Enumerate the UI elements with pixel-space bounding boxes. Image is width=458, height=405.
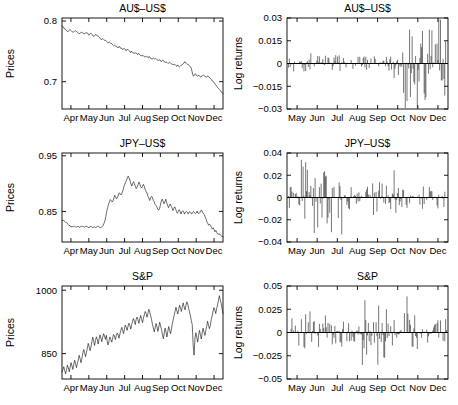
x-tick-label: Jun [310, 245, 325, 256]
x-tick-label: Sep [369, 382, 386, 393]
x-tick-label: Jul [331, 245, 343, 256]
chart-panel-jpy-prices: JPY–US$Prices0.850.95AprMayJunJulAugSepO… [0, 135, 229, 268]
x-tick-label: Dec [206, 245, 223, 256]
y-tick-label: −0.03 [258, 103, 282, 114]
x-tick-label: Nov [188, 112, 205, 123]
x-tick-label: Jun [99, 112, 114, 123]
chart-panel-jpy-returns: JPY–US$Log returns−0.04−0.0200.020.04May… [229, 135, 458, 268]
price-series-line [62, 296, 223, 374]
y-axis-label: Log returns [232, 306, 244, 359]
x-tick-label: Apr [64, 112, 79, 123]
x-tick-label: May [80, 382, 98, 393]
y-tick-label: 0.04 [264, 147, 283, 158]
y-tick-label: 0.85 [39, 206, 58, 217]
x-tick-label: May [80, 245, 98, 256]
y-tick-label: 0.02 [264, 170, 283, 181]
x-tick-label: Sep [152, 245, 169, 256]
y-axis-label: Prices [4, 318, 16, 347]
x-tick-label: Nov [409, 382, 426, 393]
figure-panel-grid: AU$–US$Prices0.70.8AprMayJunJulAugSepOct… [0, 0, 458, 405]
y-tick-label: −0.02 [258, 214, 282, 225]
panel-title: JPY–US$ [120, 137, 166, 149]
x-tick-label: Oct [171, 112, 186, 123]
panel-title: S&P [132, 270, 153, 282]
x-tick-label: Nov [409, 112, 426, 123]
chart-panel-sp-returns: S&PLog returns−0.05−0.02500.0250.05MayJu… [229, 268, 458, 405]
y-axis-label: Prices [4, 49, 16, 78]
x-tick-label: May [80, 112, 98, 123]
chart-panel-au-returns: AU$–US$Log returns−0.03−0.01500.0150.03M… [229, 0, 458, 135]
y-tick-label: 0.7 [44, 76, 57, 87]
y-tick-label: 1000 [36, 285, 57, 296]
chart-panel-au-prices: AU$–US$Prices0.70.8AprMayJunJulAugSepOct… [0, 0, 229, 135]
x-tick-label: Apr [64, 245, 79, 256]
x-tick-label: Aug [349, 112, 366, 123]
log-returns-spikes [289, 296, 447, 365]
y-axis-label: Prices [4, 183, 16, 212]
x-tick-label: May [288, 245, 306, 256]
y-tick-label: 0 [277, 327, 282, 338]
x-tick-label: Jul [119, 382, 131, 393]
x-tick-label: Aug [349, 382, 366, 393]
x-tick-label: Oct [171, 245, 186, 256]
y-tick-label: −0.04 [258, 236, 282, 247]
chart-panel-sp-prices: S&PPrices8501000AprMayJunJulAugSepOctNov… [0, 268, 229, 405]
x-tick-label: Oct [390, 112, 405, 123]
x-tick-label: Aug [134, 112, 151, 123]
price-series-line [62, 176, 223, 237]
x-tick-label: Oct [171, 382, 186, 393]
x-tick-label: Jul [119, 245, 131, 256]
y-tick-label: −0.05 [258, 373, 282, 384]
y-tick-label: 0.03 [264, 12, 283, 23]
x-tick-label: Sep [369, 112, 386, 123]
x-tick-label: Dec [429, 112, 446, 123]
x-tick-label: Jul [119, 112, 131, 123]
y-tick-label: −0.025 [253, 350, 282, 361]
y-tick-label: −0.015 [253, 81, 282, 92]
x-tick-label: May [288, 382, 306, 393]
x-tick-label: Dec [429, 382, 446, 393]
return-spike-path [289, 296, 447, 365]
x-tick-label: Oct [390, 382, 405, 393]
price-series-line [62, 26, 223, 94]
x-tick-label: Jun [99, 382, 114, 393]
x-tick-label: Apr [64, 382, 79, 393]
y-tick-label: 0.8 [44, 15, 57, 26]
x-tick-label: Aug [349, 245, 366, 256]
y-tick-label: 0.015 [258, 35, 282, 46]
x-tick-label: May [288, 112, 306, 123]
y-tick-label: 0.95 [39, 150, 58, 161]
plot-frame [62, 18, 223, 109]
x-tick-label: Aug [134, 382, 151, 393]
y-tick-label: 0.025 [258, 304, 282, 315]
y-tick-label: 0.05 [264, 280, 283, 291]
x-tick-label: Dec [429, 245, 446, 256]
y-axis-label: Log returns [232, 171, 244, 224]
x-tick-label: Nov [188, 245, 205, 256]
panel-title: S&P [357, 270, 378, 282]
x-tick-label: Sep [152, 112, 169, 123]
x-tick-label: Sep [152, 382, 169, 393]
y-tick-label: 0 [277, 58, 282, 69]
panel-title: JPY–US$ [345, 137, 391, 149]
panel-title: AU$–US$ [119, 2, 166, 14]
x-tick-label: Sep [369, 245, 386, 256]
x-tick-label: Dec [206, 112, 223, 123]
x-tick-label: Nov [188, 382, 205, 393]
x-tick-label: Jun [310, 112, 325, 123]
x-tick-label: Jun [99, 245, 114, 256]
panel-title: AU$–US$ [344, 2, 391, 14]
x-tick-label: Aug [134, 245, 151, 256]
y-tick-label: 850 [41, 348, 57, 359]
y-tick-label: 0 [277, 192, 282, 203]
x-tick-label: Jun [310, 382, 325, 393]
x-tick-label: Nov [409, 245, 426, 256]
x-tick-label: Jul [331, 112, 343, 123]
y-axis-label: Log returns [232, 37, 244, 90]
x-tick-label: Oct [390, 245, 405, 256]
x-tick-label: Jul [331, 382, 343, 393]
plot-frame [62, 153, 223, 242]
x-tick-label: Dec [206, 382, 223, 393]
